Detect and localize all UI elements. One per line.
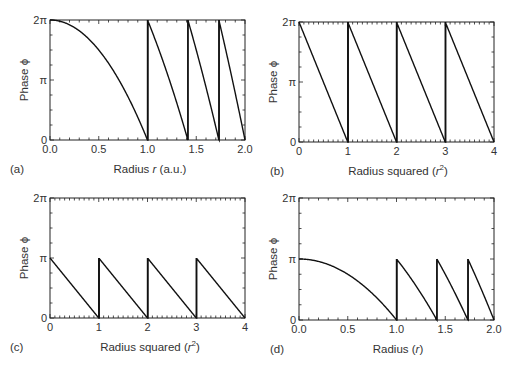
- y-tick-label: 2π: [282, 192, 296, 204]
- y-tick-label: π: [288, 253, 296, 265]
- x-tick-label: 0: [47, 321, 53, 333]
- x-tick-label: 2.0: [237, 143, 252, 155]
- y-axis-label: Phase ϕ: [18, 59, 30, 101]
- x-tick-label: 1: [96, 321, 102, 333]
- x-tick-label: 3: [442, 145, 448, 157]
- x-axis-label: Radius squared (r2): [348, 163, 448, 177]
- x-tick-label: 1.5: [438, 323, 453, 335]
- y-tick-label: 2π: [33, 14, 47, 26]
- x-tick-label: 2: [144, 321, 150, 333]
- phase-curve: [299, 259, 494, 320]
- y-tick-label: π: [39, 74, 47, 86]
- y-tick-label: 0: [290, 314, 296, 326]
- x-tick-label: 1.0: [389, 323, 404, 335]
- x-tick-label: 2: [393, 145, 399, 157]
- panel-tag: (b): [270, 165, 284, 177]
- panel-tag: (d): [270, 343, 284, 355]
- y-axis-label: Phase ϕ: [267, 238, 279, 280]
- phase-curve: [299, 22, 494, 142]
- x-tick-label: 0.5: [340, 323, 355, 335]
- x-axis-label: Radius (r): [373, 343, 424, 355]
- y-tick-label: π: [39, 252, 47, 264]
- phase-curve: [50, 20, 245, 140]
- y-tick-label: 0: [290, 136, 296, 148]
- x-tick-label: 3: [193, 321, 199, 333]
- x-tick-label: 4: [242, 321, 248, 333]
- panel-c: 012340π2πPhase ϕRadius squared (r2)(c): [10, 192, 248, 353]
- y-tick-label: 0: [41, 312, 47, 324]
- x-tick-label: 1.5: [189, 143, 204, 155]
- x-tick-label: 0: [296, 145, 302, 157]
- x-tick-label: 1: [345, 145, 351, 157]
- figure: 0.00.51.01.52.00π2πPhase ϕRadius r (a.u.…: [0, 0, 517, 368]
- x-axis-label: Radius r (a.u.): [114, 163, 187, 175]
- y-axis-label: Phase ϕ: [267, 61, 279, 103]
- panel-d: 0.00.51.01.52.00π2πPhase ϕRadius (r)(d): [267, 192, 502, 355]
- y-tick-label: 2π: [282, 16, 296, 28]
- panel-tag: (c): [10, 341, 24, 353]
- panel-tag: (a): [10, 163, 24, 175]
- y-tick-label: 0: [41, 134, 47, 146]
- x-tick-label: 0.5: [91, 143, 106, 155]
- panel-a: 0.00.51.01.52.00π2πPhase ϕRadius r (a.u.…: [10, 14, 253, 175]
- x-tick-label: 4: [491, 145, 497, 157]
- y-tick-label: π: [288, 76, 296, 88]
- y-tick-label: 2π: [33, 192, 47, 204]
- x-tick-label: 2.0: [486, 323, 501, 335]
- panel-b: 012340π2πPhase ϕRadius squared (r2)(b): [267, 16, 497, 177]
- phase-curve: [50, 258, 245, 318]
- x-tick-label: 1.0: [140, 143, 155, 155]
- y-axis-label: Phase ϕ: [18, 237, 30, 279]
- x-axis-label: Radius squared (r2): [100, 339, 200, 353]
